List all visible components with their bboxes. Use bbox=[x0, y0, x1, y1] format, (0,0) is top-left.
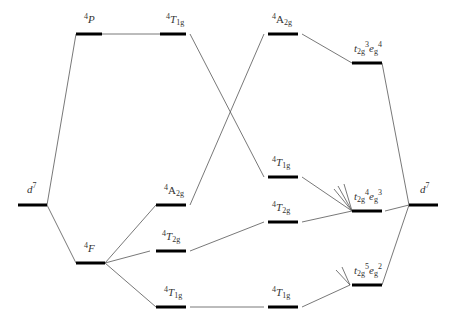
label-4T1g-d: 4T1g bbox=[272, 285, 290, 300]
label-t2g3eg4: t2g3eg4 bbox=[354, 40, 382, 56]
label-d7-right: d7 bbox=[420, 181, 430, 195]
label-4F: 4F bbox=[84, 241, 95, 254]
diagram-svg: d7 4P 4F 4T1g 4A2g 4T2g 4T1g 4A2g 4T1g 4… bbox=[0, 0, 452, 324]
correlation-diagram: d7 4P 4F 4T1g 4A2g 4T2g 4T1g 4A2g 4T1g 4… bbox=[0, 0, 452, 324]
label-4P: 4P bbox=[84, 12, 95, 25]
label-t2g5eg2: t2g5eg2 bbox=[354, 262, 382, 278]
energy-levels bbox=[18, 34, 438, 307]
level-labels: d7 4P 4F 4T1g 4A2g 4T2g 4T1g 4A2g 4T1g 4… bbox=[27, 12, 430, 300]
label-4T1g-a: 4T1g bbox=[166, 12, 184, 27]
label-4T1g-b: 4T1g bbox=[164, 285, 182, 300]
label-4T2g-a: 4T2g bbox=[162, 229, 180, 244]
label-4A2g-a: 4A2g bbox=[164, 183, 184, 198]
label-4T1g-c: 4T1g bbox=[272, 155, 290, 170]
label-4A2g-b: 4A2g bbox=[272, 12, 292, 27]
label-t2g4eg3: t2g4eg3 bbox=[354, 188, 382, 204]
label-d7-left: d7 bbox=[27, 181, 37, 195]
label-4T2g-b: 4T2g bbox=[272, 200, 290, 215]
